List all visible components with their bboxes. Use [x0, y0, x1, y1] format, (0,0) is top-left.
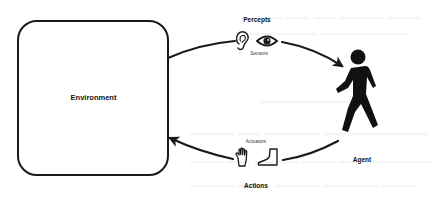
actions-arrow-left-segment — [170, 138, 233, 159]
actions-label: Actions — [243, 182, 269, 189]
hand-icon — [236, 148, 247, 166]
agent-label: Agent — [350, 156, 374, 163]
foot-icon — [258, 149, 277, 165]
eye-icon — [257, 37, 277, 46]
walking-person-icon — [336, 50, 378, 133]
ear-icon — [237, 32, 248, 50]
percepts-arrow-right-segment — [282, 42, 342, 66]
actuators-label: Actuators — [243, 139, 269, 144]
percepts-arrow-left-segment — [168, 41, 235, 58]
sensors-label: Sensors — [247, 51, 271, 56]
actions-arrow-right-segment — [283, 141, 338, 160]
percepts-label: Percepts — [242, 16, 272, 23]
